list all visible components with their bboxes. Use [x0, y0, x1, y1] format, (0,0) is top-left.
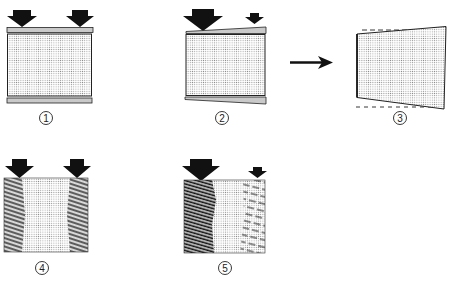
panel-3: 3 [356, 27, 446, 125]
bottom-wedge-plate [185, 97, 266, 104]
panel-4: 4 [4, 159, 91, 275]
diagram-svg: 1 2 3 4 [0, 0, 449, 283]
transition-arrow [290, 56, 333, 69]
left-heavy-stress-zone [184, 180, 216, 253]
left-stress-zone [4, 178, 25, 252]
top-plate [7, 28, 93, 33]
panel-label: 1 [43, 113, 49, 124]
small-load-arrow-icon [245, 13, 264, 24]
bottom-plate [7, 98, 92, 103]
load-arrow-icon [63, 159, 91, 178]
large-load-arrow-icon [182, 159, 220, 181]
panel-label: 5 [222, 263, 228, 274]
right-stress-zone [67, 178, 88, 252]
panel-label: 4 [39, 263, 45, 274]
panel-5: 5 [182, 159, 267, 275]
load-arrow-icon [66, 10, 94, 27]
load-arrow-icon [7, 10, 37, 27]
panel-1: 1 [7, 10, 94, 125]
panel-2: 2 [183, 9, 266, 125]
panel-label: 2 [219, 113, 225, 124]
load-arrow-icon [5, 159, 34, 178]
top-wedge-plate [186, 27, 266, 34]
block [186, 35, 265, 96]
block [8, 34, 92, 96]
small-load-arrow-icon [248, 167, 267, 178]
diagram-canvas: 1 2 3 4 [0, 0, 449, 283]
panel-label: 3 [397, 113, 403, 124]
large-load-arrow-icon [183, 9, 223, 31]
deformed-block [357, 27, 446, 110]
